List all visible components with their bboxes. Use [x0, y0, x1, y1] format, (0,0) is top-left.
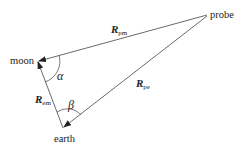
vector-label-r-em: Rem — [34, 93, 51, 107]
node-label-moon: moon — [10, 55, 35, 66]
angle-label-alpha: α — [57, 69, 64, 83]
vector-label-r-pm: Rpm — [110, 23, 128, 37]
vector-label-r-pe: Rpe — [135, 77, 150, 91]
vector-r-pm-line — [39, 15, 207, 61]
triangle-diagram: moon earth probe Rpm Rpe Rem α β — [0, 0, 246, 150]
vector-r-pe-line — [64, 16, 207, 127]
angle-label-beta: β — [67, 98, 74, 112]
node-label-probe: probe — [210, 9, 234, 20]
node-label-earth: earth — [54, 133, 76, 144]
